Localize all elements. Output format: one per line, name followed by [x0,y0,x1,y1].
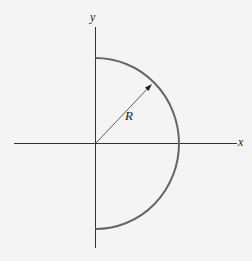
radius-label: R [125,108,133,124]
x-axis-label: x [238,135,243,150]
semicircle-diagram [0,0,252,261]
radius-line [96,86,151,144]
y-axis-label: y [90,10,95,25]
